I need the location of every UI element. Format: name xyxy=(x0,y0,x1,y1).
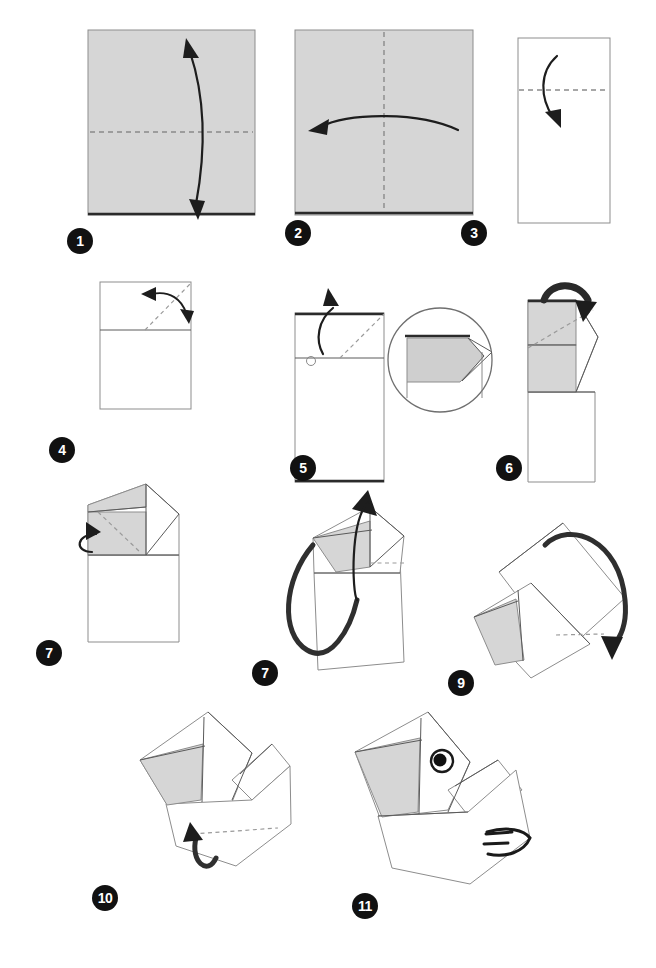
step-badge-2: 2 xyxy=(285,220,311,246)
step-badge-7a: 7 xyxy=(36,640,62,666)
step11-wing-stripe-2 xyxy=(484,843,508,844)
step9-gray-flap xyxy=(474,599,524,665)
step-10-figure xyxy=(140,712,291,866)
step6-lower-body xyxy=(528,392,595,482)
step-2-figure xyxy=(295,30,473,215)
step-5-figure xyxy=(295,288,492,482)
step-6-figure xyxy=(528,286,598,482)
step-badge-4: 4 xyxy=(49,437,75,463)
step7b-arrow-head xyxy=(352,490,377,516)
step5-arrow-head-up xyxy=(323,288,339,306)
step-badge-9: 9 xyxy=(448,670,474,696)
step-4-figure xyxy=(100,282,194,409)
step-badge-3: 3 xyxy=(461,220,487,246)
step-badge-1: 1 xyxy=(67,228,93,254)
step-badge-11: 11 xyxy=(352,893,378,919)
step3-paper xyxy=(518,38,610,223)
origami-diagram xyxy=(0,0,656,968)
step-badge-6: 6 xyxy=(496,455,522,481)
step6-gray-top xyxy=(528,300,576,345)
step7a-lower-body xyxy=(88,555,179,642)
step-11-figure xyxy=(355,712,530,884)
step9-arrow-head xyxy=(601,636,623,660)
step11-eye-pupil xyxy=(434,754,447,767)
step-9-figure xyxy=(474,523,625,678)
step-3-figure xyxy=(518,38,610,223)
step-7b-figure xyxy=(288,490,404,670)
step-1-figure xyxy=(88,30,255,220)
step6-gray-bottom xyxy=(528,345,576,392)
step-badge-5: 5 xyxy=(290,455,316,481)
step-7a-figure xyxy=(80,484,179,642)
origami-instruction-sheet: 1 2 3 4 5 6 7 7 9 10 11 xyxy=(0,0,656,968)
step-badge-7b: 7 xyxy=(252,660,278,686)
step4-paper xyxy=(100,282,191,409)
step11-wing-stripe-1 xyxy=(486,832,512,834)
step1-paper xyxy=(88,30,255,215)
step-badge-10: 10 xyxy=(92,885,118,911)
step6-wrap-arrow xyxy=(544,286,588,300)
